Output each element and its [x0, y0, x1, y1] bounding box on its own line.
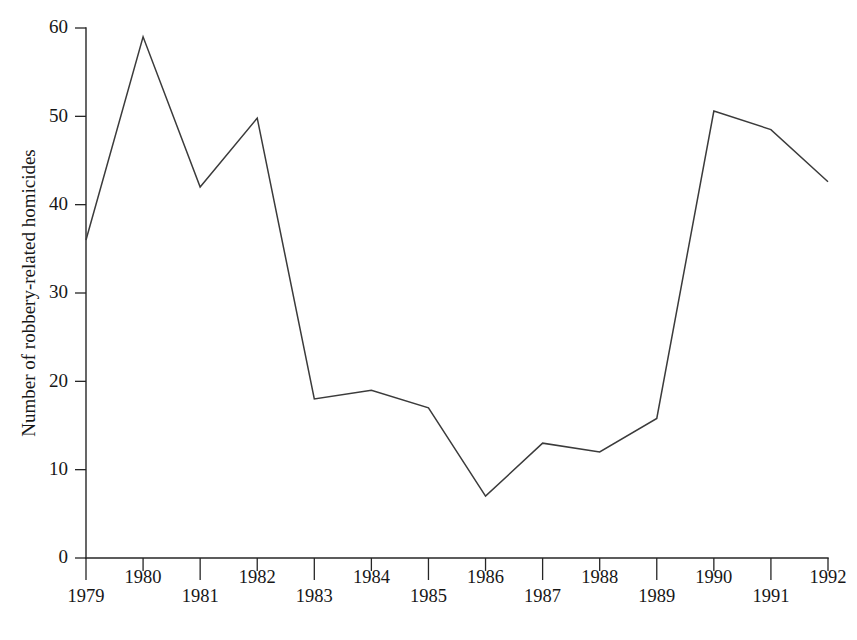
x-tick-label: 1984	[353, 567, 390, 587]
y-axis-title: Number of robbery-related homicides	[18, 149, 39, 437]
x-tick-label: 1987	[524, 586, 561, 606]
y-tick-label: 0	[59, 546, 69, 567]
x-tick-label: 1989	[638, 586, 675, 606]
x-tick-label: 1992	[810, 567, 847, 587]
y-tick-label: 10	[49, 458, 68, 479]
y-tick-label: 40	[49, 193, 68, 214]
x-tick-label: 1982	[239, 567, 276, 587]
x-tick-label: 1981	[182, 586, 219, 606]
x-tick-label-group: 1979198019811982198319841985198619871988…	[68, 567, 847, 606]
x-tick-label: 1983	[296, 586, 333, 606]
x-tick-label: 1988	[581, 567, 618, 587]
x-tick-label: 1991	[752, 586, 789, 606]
x-tick-label: 1980	[125, 567, 162, 587]
x-tick-label: 1986	[467, 567, 504, 587]
x-axis: 1979198019811982198319841985198619871988…	[68, 558, 847, 606]
plot-area	[86, 37, 828, 496]
axis-title-group: Number of robbery-related homicides	[18, 149, 39, 437]
y-tick-label: 60	[49, 16, 68, 37]
data-series-line	[86, 37, 828, 496]
y-tick-label: 30	[49, 281, 68, 302]
chart-container: 0102030405060 19791980198119821983198419…	[0, 0, 857, 640]
y-tick-label-group: 0102030405060	[49, 16, 68, 567]
y-tick-label: 20	[49, 370, 68, 391]
y-axis: 0102030405060	[49, 16, 86, 567]
x-tick-label: 1985	[410, 586, 447, 606]
x-tick-label: 1990	[695, 567, 732, 587]
x-tick-label: 1979	[68, 586, 105, 606]
line-chart: 0102030405060 19791980198119821983198419…	[0, 0, 857, 640]
y-tick-group	[75, 28, 86, 558]
y-tick-label: 50	[49, 105, 68, 126]
